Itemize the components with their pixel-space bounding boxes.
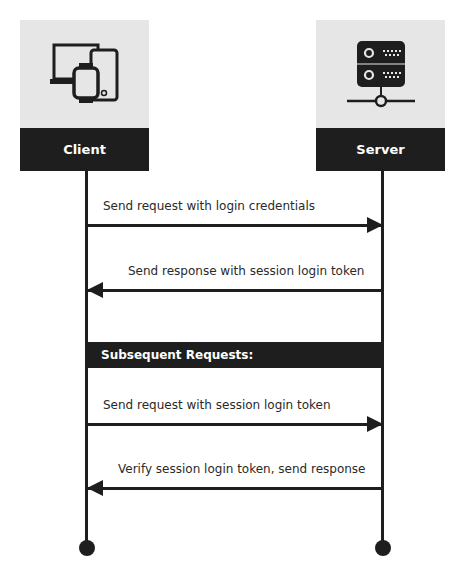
server-icon-area xyxy=(316,20,445,128)
arrow-line xyxy=(87,289,383,292)
server-label: Server xyxy=(316,128,445,171)
server-lifeline-end-dot xyxy=(375,540,391,556)
client-lifeline-end-dot xyxy=(79,540,95,556)
message-label-4: Verify session login token, send respons… xyxy=(118,462,366,476)
message-arrow-1 xyxy=(87,215,383,235)
arrow-left-icon xyxy=(87,282,103,298)
message-arrow-4 xyxy=(87,478,383,498)
arrow-line xyxy=(87,487,383,490)
client-actor: Client xyxy=(20,20,149,171)
arrow-left-icon xyxy=(87,480,103,496)
client-icon-area xyxy=(20,20,149,128)
client-label: Client xyxy=(20,128,149,171)
message-label-1: Send request with login credentials xyxy=(103,199,315,213)
message-arrow-3 xyxy=(87,414,383,434)
arrow-line xyxy=(87,224,383,227)
message-arrow-2 xyxy=(87,280,383,300)
server-actor: Server xyxy=(316,20,445,171)
server-icon xyxy=(345,39,417,109)
message-label-3: Send request with session login token xyxy=(103,398,331,412)
arrow-line xyxy=(87,423,383,426)
subsequent-requests-bar: Subsequent Requests: xyxy=(86,342,383,368)
arrow-right-icon xyxy=(367,416,383,432)
devices-icon xyxy=(49,41,121,107)
message-label-2: Send response with session login token xyxy=(128,264,364,278)
arrow-right-icon xyxy=(367,217,383,233)
